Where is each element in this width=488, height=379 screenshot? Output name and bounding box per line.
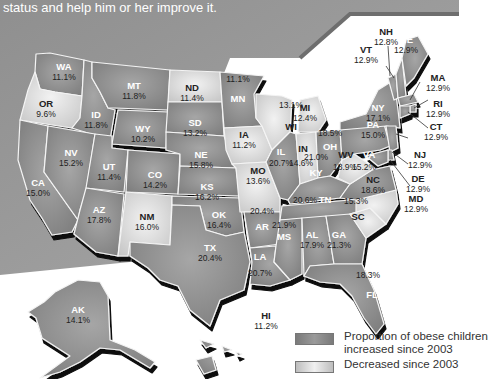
state-abbr: AL [300,230,324,240]
state-abbr: WI [285,122,297,132]
legend-label-increased-2: increased since 2003 [344,343,488,356]
state-percent: 11.4% [97,172,120,182]
state-RI [410,104,416,112]
state-abbr: IL [277,147,285,157]
state-percent: 12.9% [426,83,450,93]
state-value-ar: 20.4% [250,206,274,216]
state-percent: 17.1% [366,113,390,123]
state-label-md: MD12.9% [404,194,428,214]
legend-label-decreased: Decreased since 2003 [344,358,458,371]
legend-swatch-decreased [295,361,334,373]
state-value-mn: 11.1% [226,74,249,84]
state-abbr: OR [36,99,55,109]
state-abbr: IA [232,130,255,140]
state-percent: 11.8% [122,91,145,101]
state-abbr: CT [424,122,448,132]
state-label-wa: WA11.1% [52,62,75,82]
state-abbr: MA [426,73,450,83]
state-label-vt: VT12.9% [354,45,378,65]
state-label-id: ID11.8% [84,110,107,130]
state-label-wy: WY10.2% [131,124,155,144]
state-percent: 11.8% [84,120,107,130]
state-abbr: ME [394,35,418,45]
state-percent: 18.9% [333,162,357,172]
state-percent: 17.9% [300,240,324,250]
state-label-or: OR9.6% [36,99,55,119]
state-abbr: ID [84,110,107,120]
state-percent: 15.0% [26,188,50,198]
state-label-ny: NY17.1% [366,103,390,123]
state-label-ma: MA12.9% [426,73,450,93]
state-NJ [386,126,398,152]
state-abbr: WY [131,124,155,134]
state-AK [28,280,155,378]
state-label-ak: AK14.1% [66,305,90,325]
state-abbr: HI [254,311,277,321]
state-label-sc: SC [351,212,364,222]
state-percent: 16.4% [207,220,231,230]
state-abbr: WV [338,150,353,160]
state-label-de: DE12.9% [406,174,430,194]
state-abbr: RI [426,99,450,109]
state-abbr: MN [231,94,246,104]
state-percent: 20.4% [198,253,222,263]
state-abbr: WA [52,62,75,72]
state-label-mn: MN [231,94,246,104]
state-abbr: AZ [87,205,111,215]
state-percent: 11.1% [226,74,249,84]
state-label-al: AL17.9% [300,230,324,250]
state-label-wv: WV [338,150,353,160]
state-label-ct: CT12.9% [424,122,448,142]
legend-label-increased-1: Proportion of obese children [344,330,488,343]
state-abbr: CO [143,170,167,180]
state-abbr: NC [361,175,385,185]
state-DE [388,150,394,160]
state-label-me: ME12.9% [394,35,418,55]
state-abbr: SC [351,212,364,222]
state-percent: 18.5% [318,128,342,138]
state-abbr: MT [122,81,145,91]
state-label-oh: OH [323,142,337,152]
state-label-fl: FL [366,290,378,300]
state-abbr: LA [254,252,267,262]
states-group [18,36,428,378]
state-label-tx: TX20.4% [198,243,222,263]
state-label-ga: GA21.3% [327,230,351,250]
state-abbr: DE [406,174,430,184]
state-label-pa: PA15.0% [361,120,385,140]
state-value-fl: 18.3% [356,270,380,280]
state-label-nc: NC18.6% [361,175,385,195]
state-percent: 12.9% [404,204,428,214]
state-percent: 11.4% [180,93,203,103]
state-value-ms: 21.9% [272,220,296,230]
state-label-la: LA [254,252,267,262]
state-percent: 12.9% [408,160,432,170]
state-abbr: NY [366,103,390,113]
state-label-ca: CA15.0% [26,178,50,198]
state-label-az: AZ17.8% [87,205,111,225]
state-abbr: NM [135,212,159,222]
state-abbr: TX [198,243,222,253]
state-label-ia: IA11.2% [232,130,255,150]
state-percent: 18.3% [356,270,380,280]
state-abbr: MO [246,166,270,176]
state-value-ky: 21.0% [304,152,328,162]
state-abbr: FL [366,290,378,300]
state-abbr: MI [293,103,317,113]
state-percent: 15.0% [361,130,385,140]
legend-swatch-increased [295,333,334,345]
state-abbr: MD [404,194,428,204]
state-abbr: OH [323,142,337,152]
state-label-sd: SD13.2% [183,118,207,138]
state-percent: 10.2% [131,134,155,144]
state-label-mo: MO13.6% [246,166,270,186]
state-percent: 20.7% [248,268,272,278]
state-percent: 13.2% [183,128,207,138]
state-abbr: VA [363,150,376,160]
state-abbr: SD [183,118,207,128]
state-abbr: NJ [408,150,432,160]
state-label-mt: MT11.8% [122,81,145,101]
state-value-sc: 15.3% [344,196,368,206]
state-label-hi: HI11.2% [254,311,277,331]
legend-item-decreased: Decreased since 2003 [295,358,458,373]
